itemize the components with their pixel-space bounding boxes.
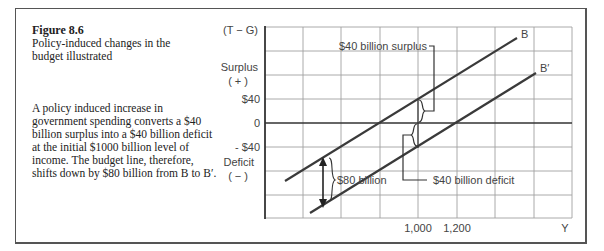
budget-chart: (T − G) Surplus ( + ) $40 0 - $40 Defici… — [0, 0, 604, 251]
budget-line-b — [285, 38, 517, 181]
surplus-label: Surplus — [221, 61, 259, 73]
label-b: B — [521, 28, 528, 40]
y-tick-neg40: - $40 — [235, 141, 260, 153]
deficit-sign: ( − ) — [228, 170, 248, 182]
label-b-prime: B′ — [540, 62, 549, 74]
y-tick-0: 0 — [254, 117, 260, 129]
surplus-bracket — [419, 100, 425, 122]
surplus-leader — [425, 46, 434, 111]
x-tick-1200: 1,200 — [443, 222, 471, 234]
deficit-label: Deficit — [223, 156, 254, 168]
surplus-annotation: $40 billion surplus — [339, 40, 428, 52]
y-tick-40: $40 — [242, 93, 260, 105]
deficit-bracket — [411, 124, 417, 146]
surplus-sign: ( + ) — [228, 75, 248, 87]
budget-line-b-prime — [310, 73, 536, 213]
x-tick-1000: 1,000 — [404, 222, 432, 234]
deficit-annotation: $40 billion deficit — [433, 174, 514, 186]
y-axis-title: (T − G) — [223, 24, 258, 36]
x-axis-title: Y — [561, 222, 569, 234]
shift-annotation: $80 billion — [337, 174, 387, 186]
